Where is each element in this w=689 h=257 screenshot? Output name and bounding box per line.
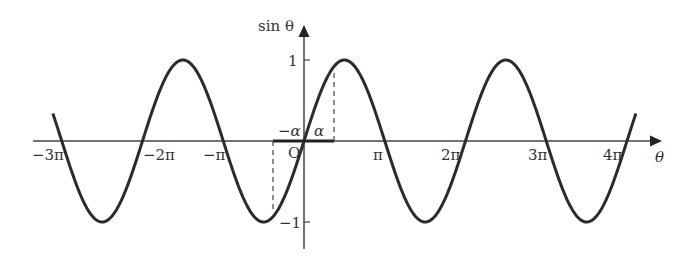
- x-tick-label: −2π: [143, 146, 175, 164]
- x-axis-arrow-icon: [650, 136, 662, 147]
- y-axis-label: sin θ: [258, 17, 294, 35]
- x-tick-label: 2π: [441, 146, 461, 164]
- alpha-label: α: [314, 122, 324, 140]
- x-tick-label: 4π: [603, 146, 623, 164]
- x-axis-label: θ: [655, 148, 664, 166]
- sine-graph: sin θ θ 1 −1 O −α α −3π −2π −π π 2π 3π 4…: [0, 0, 689, 257]
- neg-alpha-label: −α: [278, 122, 301, 140]
- x-tick-label: π: [373, 146, 383, 164]
- y-tick-label-neg1: −1: [279, 214, 301, 232]
- x-tick-label: 3π: [528, 146, 548, 164]
- y-axis-arrow-icon: [299, 25, 310, 37]
- x-tick-label: −π: [203, 146, 226, 164]
- y-tick-label-1: 1: [288, 52, 298, 70]
- x-tick-label: −3π: [32, 146, 64, 164]
- origin-label: O: [288, 144, 300, 162]
